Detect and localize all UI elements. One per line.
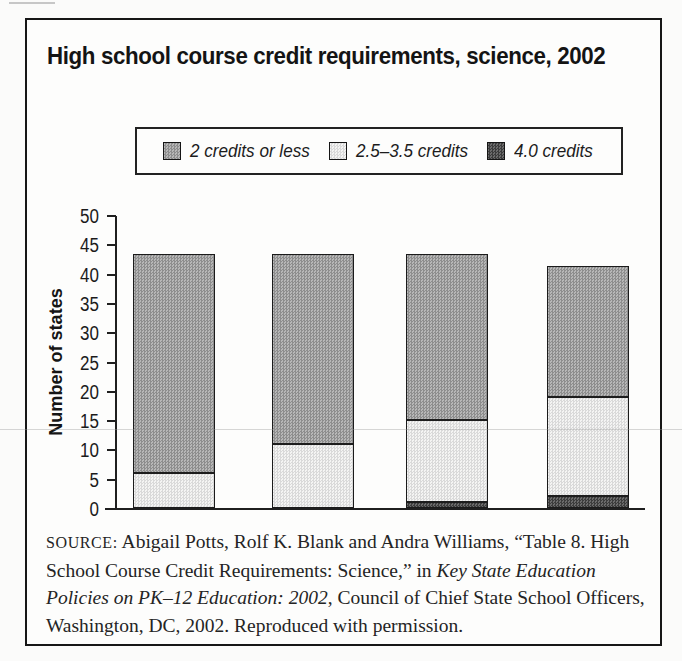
y-tick [107, 420, 116, 422]
y-tick-label: 25 [58, 353, 99, 373]
legend-label: 2.5–3.5 credits [356, 141, 468, 162]
bar-segment [134, 472, 214, 507]
x-axis-line [105, 508, 645, 510]
y-tick-label: 5 [58, 470, 99, 490]
bar-segment [134, 255, 214, 472]
legend-item-2-5-3-5-credits: 2.5–3.5 credits [329, 141, 474, 162]
bar-segment [407, 419, 487, 501]
y-tick-label: 0 [58, 499, 99, 519]
stacked-bar [133, 254, 215, 508]
bar-segment [407, 255, 487, 419]
scan-artifact-line [0, 429, 682, 430]
stacked-bar [547, 266, 629, 508]
y-tick [107, 215, 116, 217]
y-tick-label: 35 [58, 294, 99, 314]
y-tick [107, 244, 116, 246]
stacked-bar [406, 254, 488, 508]
legend-label: 4.0 credits [514, 141, 593, 162]
bar-segment [548, 267, 628, 396]
legend-swatch-dark [487, 142, 505, 160]
y-tick-label: 50 [58, 206, 99, 226]
legend-label: 2 credits or less [190, 141, 310, 162]
source-note: SOURCE: Abigail Potts, Rolf K. Blank and… [46, 528, 659, 639]
legend-swatch-hatch-medium [163, 142, 181, 160]
legend: 2 credits or less 2.5–3.5 credits 4.0 cr… [135, 127, 623, 175]
y-tick [107, 362, 116, 364]
plot-area: 05101520253035404550 [105, 216, 645, 509]
y-tick [107, 449, 116, 451]
bar-segment [273, 443, 353, 507]
scan-artifact-mark [9, 2, 55, 4]
chart-title: High school course credit requirements, … [47, 42, 568, 70]
scanned-figure-page: High school course credit requirements, … [0, 0, 682, 661]
legend-item-2-credits-or-less: 2 credits or less [163, 141, 316, 162]
y-tick [107, 508, 116, 510]
bar-segment [548, 495, 628, 507]
stacked-bar [272, 254, 354, 508]
y-tick [107, 303, 116, 305]
legend-swatch-light [329, 142, 347, 160]
y-tick [107, 332, 116, 334]
y-tick-label: 30 [58, 323, 99, 343]
source-segment: SOURCE: [46, 534, 118, 551]
legend-item-4-0-credits: 4.0 credits [487, 141, 597, 162]
y-tick-label: 10 [58, 440, 99, 460]
y-tick-label: 45 [58, 235, 99, 255]
y-tick-label: 20 [58, 382, 99, 402]
bar-segment [273, 255, 353, 443]
bar-segment [407, 501, 487, 507]
y-tick [107, 274, 116, 276]
y-tick-label: 40 [58, 265, 99, 285]
y-tick [107, 391, 116, 393]
y-tick [107, 479, 116, 481]
bar-segment [548, 396, 628, 496]
